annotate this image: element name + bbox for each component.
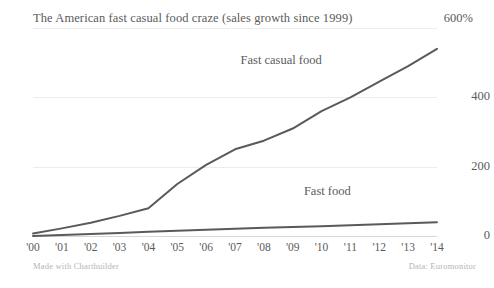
series-label: Fast food: [304, 184, 351, 199]
x-tick-label: '12: [372, 241, 386, 253]
x-tick-label: '14: [430, 241, 444, 253]
y-tick-label: 0: [484, 228, 490, 243]
y-tick-label: 200: [471, 159, 490, 174]
x-tick-label: '11: [344, 241, 357, 253]
chart-title: The American fast casual food craze (sal…: [33, 11, 353, 26]
x-tick-label: '08: [257, 241, 271, 253]
plot-area: [33, 28, 437, 236]
series-lines: [33, 28, 437, 236]
zero-axis-line: [33, 236, 437, 237]
x-tick-label: '07: [228, 241, 242, 253]
line-series: [33, 222, 437, 236]
x-tick-label: '09: [286, 241, 300, 253]
y-axis-unit-label: 600%: [444, 11, 473, 26]
x-tick-label: '04: [142, 241, 156, 253]
footer-source: Data: Euromonitor: [409, 261, 476, 271]
x-tick-label: '02: [84, 241, 98, 253]
line-series: [33, 49, 437, 234]
x-tick-label: '06: [199, 241, 213, 253]
x-tick-label: '03: [113, 241, 127, 253]
x-tick-label: '01: [55, 241, 69, 253]
series-label: Fast casual food: [241, 53, 322, 68]
x-tick-label: '05: [170, 241, 184, 253]
x-tick-label: '00: [26, 241, 40, 253]
footer-credit: Made with Chartbuilder: [33, 261, 119, 271]
chart-figure: The American fast casual food craze (sal…: [0, 0, 494, 288]
x-tick-label: '13: [401, 241, 415, 253]
x-axis-labels: '00'01'02'03'04'05'06'07'08'09'10'11'12'…: [33, 241, 437, 257]
y-axis-labels: 0200400: [437, 28, 492, 243]
y-tick-label: 400: [471, 89, 490, 104]
x-tick-label: '10: [315, 241, 329, 253]
